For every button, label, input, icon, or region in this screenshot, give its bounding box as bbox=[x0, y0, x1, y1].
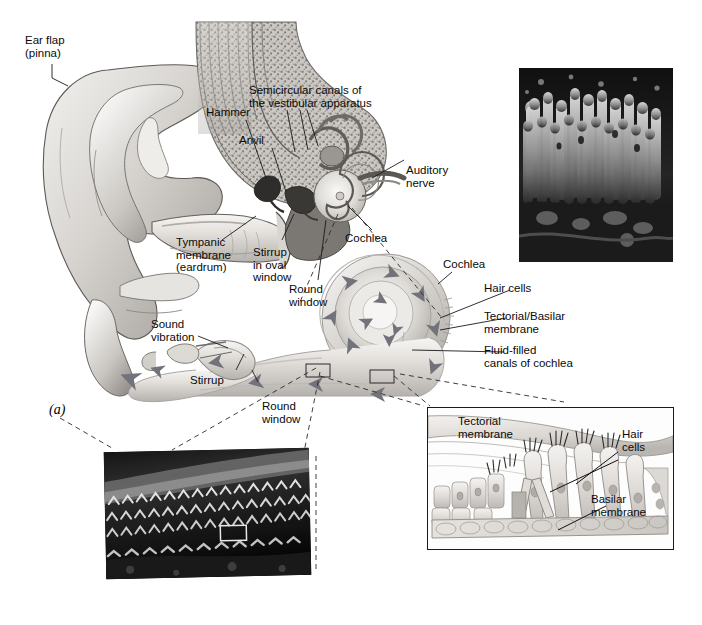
label-ear-flap: Ear flap (pinna) bbox=[25, 34, 65, 59]
label-anvil: Anvil bbox=[239, 134, 264, 147]
label-inset-hair-cells: Hair cells bbox=[622, 428, 645, 453]
micrograph-hair-cell-stereocilia bbox=[519, 68, 673, 262]
label-cochlea-main: Cochlea bbox=[345, 232, 387, 245]
label-hammer: Hammer bbox=[206, 106, 250, 119]
label-round-window-top: Round window bbox=[289, 283, 327, 308]
label-inset-basilar-membrane: Basilar membrane bbox=[591, 493, 646, 518]
panel-letter-a: (a) bbox=[49, 402, 65, 418]
label-hair-cells-right: Hair cells bbox=[484, 282, 531, 295]
label-semicircular-canals: Semicircular canals of the vestibular ap… bbox=[249, 84, 372, 109]
label-tectorial-basilar-membrane: Tectorial/Basilar membrane bbox=[484, 310, 565, 335]
label-round-window-bottom: Round window bbox=[262, 400, 300, 425]
label-sound-vibration: Sound vibration bbox=[151, 318, 194, 343]
label-inset-tectorial-membrane: Tectorial membrane bbox=[458, 415, 513, 440]
label-cochlea-uncoiled: Cochlea bbox=[443, 258, 485, 271]
label-stirrup: Stirrup bbox=[190, 374, 224, 387]
micrograph-organ-of-corti-rows bbox=[104, 448, 312, 579]
label-fluid-filled-canals: Fluid-filled canals of cochlea bbox=[484, 344, 573, 369]
label-stirrup-oval-window: Stirrup in oval window bbox=[253, 246, 291, 284]
label-tympanic-membrane: Tympanic membrane (eardrum) bbox=[176, 236, 231, 274]
label-auditory-nerve: Auditory nerve bbox=[406, 164, 448, 189]
